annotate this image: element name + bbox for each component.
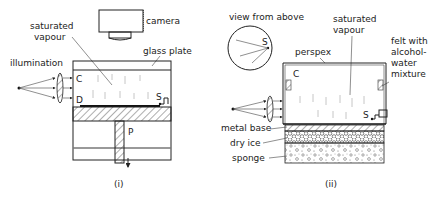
felt-label-line3: water bbox=[391, 58, 417, 68]
label-C-i: C bbox=[76, 74, 82, 84]
label-C-ii: C bbox=[293, 69, 299, 79]
felt-label-line2: alcohol- bbox=[391, 47, 426, 57]
dry-ice-label: dry ice bbox=[230, 138, 261, 148]
vapour-tracks bbox=[93, 74, 148, 99]
caption-ii: (ii) bbox=[325, 179, 337, 189]
sponge-label: sponge bbox=[232, 153, 265, 163]
felt-label-line4: mixture bbox=[391, 69, 426, 79]
label-S-i: S bbox=[156, 92, 162, 102]
label-P: P bbox=[128, 127, 134, 137]
camera bbox=[99, 10, 144, 40]
label-S-ii: S bbox=[363, 110, 369, 120]
glass-plate-label: glass plate bbox=[143, 46, 192, 56]
saturated-vapour-ii-line2: vapour bbox=[333, 25, 365, 35]
label-S-top: S bbox=[262, 37, 268, 47]
saturated-vapour-label-line2: vapour bbox=[34, 32, 66, 42]
metal-base-label: metal base bbox=[221, 123, 272, 133]
caption-i: (i) bbox=[114, 179, 124, 189]
figure-ii: view from above S saturated vapour persp… bbox=[221, 12, 428, 189]
label-D: D bbox=[76, 95, 83, 105]
illumination-label: illumination bbox=[10, 58, 63, 68]
view-from-above-label: view from above bbox=[229, 12, 304, 22]
light-source-ii bbox=[232, 96, 283, 122]
light-source-i bbox=[18, 73, 73, 103]
figure-i: camera saturated vapour glass plate illu… bbox=[10, 10, 192, 189]
vapour-tracks-ii bbox=[300, 94, 364, 119]
cloud-chamber-diagrams: camera saturated vapour glass plate illu… bbox=[0, 0, 440, 198]
camera-label: camera bbox=[146, 16, 180, 26]
saturated-vapour-ii-line1: saturated bbox=[333, 14, 376, 24]
felt-label-line1: felt with bbox=[391, 36, 428, 46]
perspex-label: perspex bbox=[295, 47, 332, 57]
chamber-i bbox=[73, 61, 171, 167]
saturated-vapour-label-line1: saturated bbox=[30, 21, 73, 31]
view-from-above-circle bbox=[228, 26, 272, 70]
